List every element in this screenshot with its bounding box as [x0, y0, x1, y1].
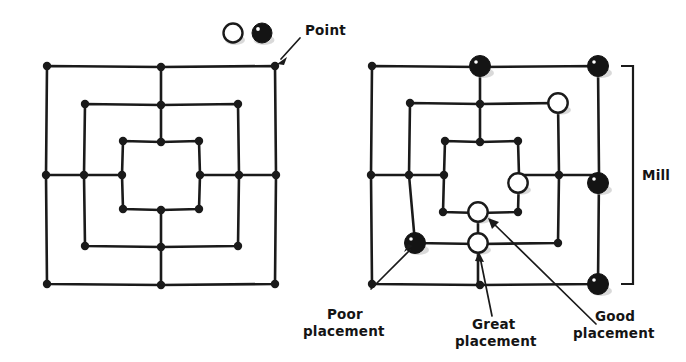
- great-placement-label-line1: Great: [472, 316, 516, 332]
- empty-board: [42, 62, 280, 289]
- point-leader-line: [281, 38, 300, 59]
- point: [514, 137, 522, 145]
- point: [271, 62, 279, 70]
- point: [119, 137, 127, 145]
- black-stone-highlight-icon: [592, 60, 596, 64]
- point: [119, 205, 127, 213]
- point: [554, 239, 562, 247]
- black-stone: [405, 233, 426, 254]
- good-placement-label-line1: Good: [595, 308, 635, 324]
- poor-placement-callout: Poor placement: [303, 244, 413, 339]
- point: [368, 62, 376, 70]
- point: [440, 171, 448, 179]
- point: [234, 100, 242, 108]
- point: [439, 208, 447, 216]
- white-stone: [468, 202, 487, 221]
- point: [157, 243, 165, 251]
- point: [42, 171, 50, 179]
- white-stone: [508, 173, 527, 192]
- point: [157, 63, 165, 71]
- point: [406, 99, 414, 107]
- point: [80, 171, 88, 179]
- point: [476, 281, 484, 289]
- black-stone: [588, 173, 609, 194]
- legend-black-stone-icon: [252, 23, 272, 43]
- black-stone-highlight-icon: [409, 237, 413, 241]
- poor-placement-label-line1: Poor: [327, 306, 363, 322]
- point: [118, 171, 126, 179]
- point: [43, 280, 51, 288]
- point: [81, 100, 89, 108]
- mill-bracket: [621, 66, 633, 284]
- point: [555, 171, 563, 179]
- black-stone: [470, 56, 491, 77]
- point: [157, 281, 165, 289]
- point-label: Point: [305, 22, 346, 38]
- black-stone-highlight-icon: [592, 177, 596, 181]
- point: [196, 171, 204, 179]
- black-stone-highlight-icon: [256, 27, 260, 31]
- point: [81, 242, 89, 250]
- inner-square-left: [122, 141, 200, 210]
- point: [43, 62, 51, 70]
- point: [234, 242, 242, 250]
- black-stone: [588, 274, 609, 295]
- good-placement-label-line2: placement: [573, 325, 655, 341]
- black-stone: [588, 56, 609, 77]
- black-stone-highlight-icon: [592, 278, 596, 282]
- point: [195, 205, 203, 213]
- point: [441, 137, 449, 145]
- legend-white-stone-icon: [224, 24, 243, 43]
- point: [476, 100, 484, 108]
- great-placement-callout: Great placement: [455, 252, 537, 349]
- morris-diagram: Point: [0, 0, 686, 362]
- great-placement-label-line2: placement: [455, 333, 537, 349]
- point: [157, 138, 165, 146]
- black-stone-highlight-icon: [474, 60, 478, 64]
- point: [271, 280, 279, 288]
- point-callout: Point: [277, 22, 346, 65]
- poor-placement-label-line2: placement: [303, 323, 385, 339]
- point: [514, 208, 522, 216]
- legend-group: [224, 23, 275, 45]
- white-stone: [468, 233, 487, 252]
- point: [405, 171, 413, 179]
- point: [272, 171, 280, 179]
- point: [367, 171, 375, 179]
- point: [235, 171, 243, 179]
- point: [157, 101, 165, 109]
- white-stone: [548, 93, 567, 112]
- point: [157, 206, 165, 214]
- annotated-board: [367, 56, 612, 297]
- point: [476, 138, 484, 146]
- mill-callout: Mill: [621, 66, 670, 284]
- diagram-canvas: Point: [0, 0, 686, 362]
- mill-label: Mill: [642, 167, 670, 183]
- good-leader-line: [492, 222, 596, 324]
- point: [195, 137, 203, 145]
